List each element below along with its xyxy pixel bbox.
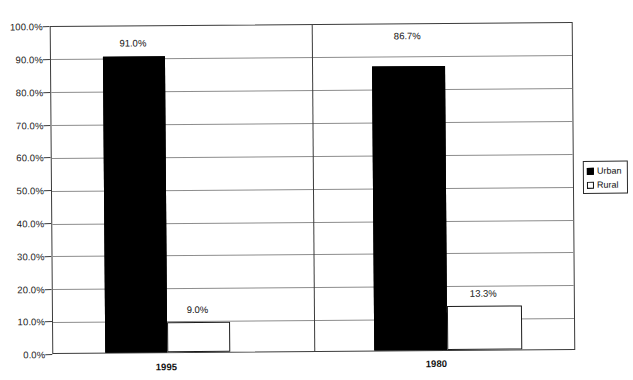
legend-label-rural: Rural (597, 180, 619, 189)
y-axis-tick-50 (44, 190, 51, 191)
y-axis-tick-80 (43, 92, 50, 93)
data-label-urban-1995: 91.0% (102, 37, 164, 48)
bar-rural-1995[interactable] (167, 322, 230, 352)
y-axis-tick-60 (44, 157, 51, 158)
data-label-rural-1980: 13.3% (446, 287, 521, 299)
y-axis-tick-90 (43, 59, 50, 60)
y-axis-label-60: 60.0% (0, 152, 44, 164)
y-axis-tick-70 (43, 125, 50, 126)
y-axis-label-100: 100.0% (0, 21, 43, 33)
filled-square-icon (587, 167, 594, 174)
y-axis-label-80: 80.0% (0, 87, 43, 99)
legend-item-urban[interactable]: Urban (587, 164, 625, 178)
bar-urban-1995[interactable] (103, 56, 167, 352)
y-axis-label-50: 50.0% (0, 185, 44, 197)
legend-label-urban: Urban (597, 166, 622, 175)
x-axis-label-1980: 1980 (376, 358, 496, 370)
x-axis-label-1995: 1995 (106, 361, 226, 373)
bar-rural-1980[interactable] (447, 305, 522, 350)
y-axis-label-10: 10.0% (0, 316, 45, 328)
plot-area (50, 22, 576, 354)
y-axis-label-90: 90.0% (0, 54, 43, 66)
y-axis-tick-20 (45, 289, 52, 290)
chart-legend[interactable]: Urban Rural (583, 161, 628, 194)
y-axis-label-20: 20.0% (0, 284, 45, 296)
y-axis-label-0: 0.0% (0, 349, 45, 361)
y-axis-label-40: 40.0% (0, 218, 44, 230)
y-axis-label-70: 70.0% (0, 120, 44, 132)
data-label-urban-1980: 86.7% (371, 30, 444, 42)
hollow-square-icon (587, 181, 594, 188)
legend-item-rural[interactable]: Rural (587, 178, 625, 192)
y-axis-tick-30 (45, 256, 52, 257)
y-axis-tick-0 (45, 354, 52, 355)
bar-chart-figure: 100.0% 90.0% 80.0% 70.0% 60.0% 50.0% 40.… (0, 0, 633, 380)
y-axis-tick-100 (43, 26, 50, 27)
y-axis-tick-40 (44, 223, 51, 224)
data-label-rural-1995: 9.0% (166, 304, 229, 315)
bar-urban-1980[interactable] (372, 66, 447, 351)
y-axis-label-30: 30.0% (0, 251, 45, 263)
y-axis-tick-10 (45, 321, 52, 322)
